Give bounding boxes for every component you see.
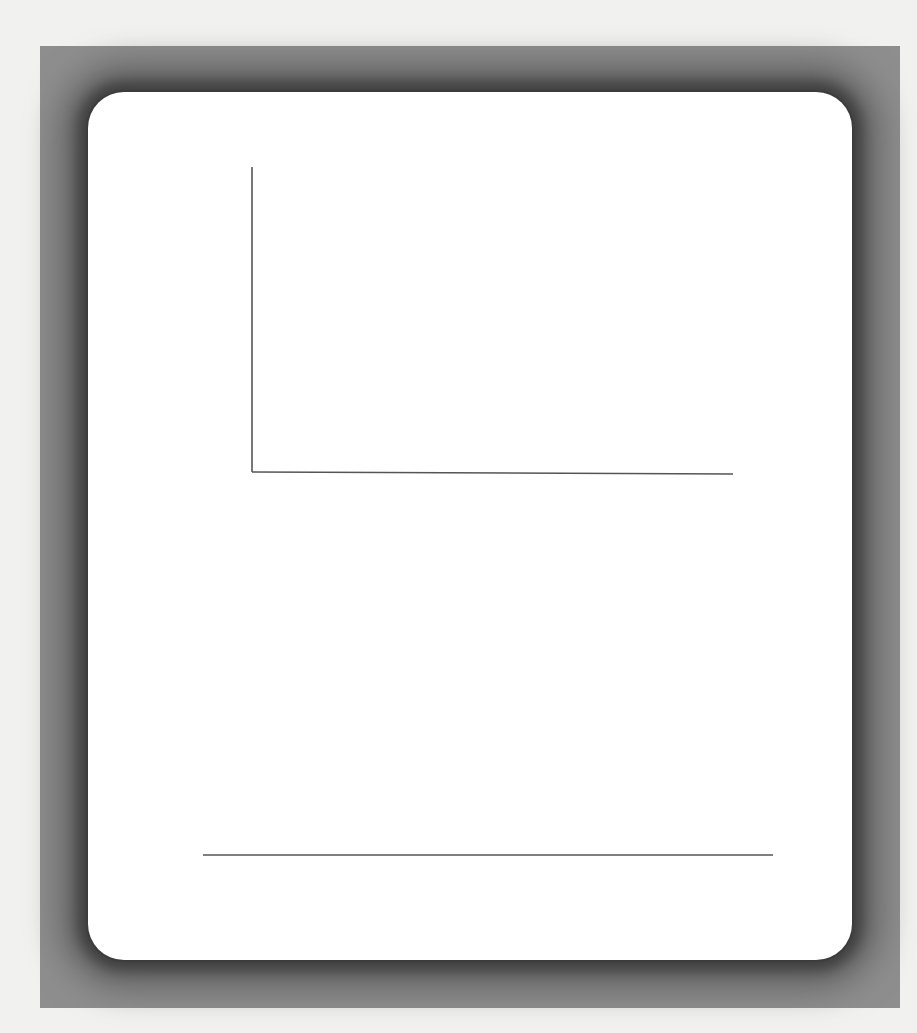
diffusion-figure [0, 0, 917, 1033]
x-axis [252, 472, 733, 474]
